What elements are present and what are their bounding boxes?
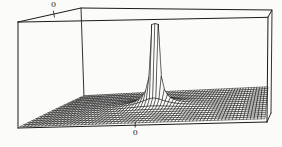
y-axis-tick-label: 0 (51, 1, 56, 9)
x-axis-tick-label: 0 (133, 129, 138, 137)
surface-plot-figure: 0 0 (0, 0, 282, 147)
wireframe-surface-canvas (0, 0, 282, 147)
